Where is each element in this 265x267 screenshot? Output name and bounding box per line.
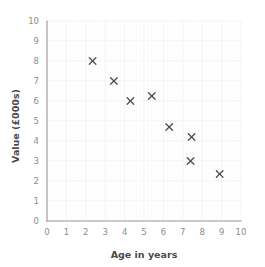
x-tick-label: 2	[83, 227, 88, 237]
y-tick-label: 7	[34, 76, 39, 86]
x-tick-label: 10	[236, 227, 247, 237]
x-tick-label: 3	[102, 227, 107, 237]
x-tick-label: 7	[180, 227, 185, 237]
x-tick-label: 1	[64, 227, 69, 237]
x-tick-label: 8	[199, 227, 204, 237]
y-tick-label: 3	[34, 156, 39, 166]
chart-canvas: 012345678910 012345678910 Age in years V…	[0, 0, 265, 267]
y-tick-label: 4	[34, 136, 39, 146]
x-tick-label: 0	[44, 227, 49, 237]
y-tick-label: 0	[34, 216, 39, 226]
x-axis-title: Age in years	[111, 249, 178, 260]
x-tick-label: 4	[122, 227, 127, 237]
y-tick-label: 2	[34, 176, 39, 186]
y-tick-label: 10	[28, 16, 39, 26]
y-tick-label: 1	[34, 196, 39, 206]
x-tick-label: 9	[219, 227, 224, 237]
scatter-chart: 012345678910 012345678910 Age in years V…	[0, 0, 265, 267]
y-tick-label: 8	[34, 56, 39, 66]
y-tick-label: 6	[34, 96, 39, 106]
x-tick-label: 5	[141, 227, 146, 237]
x-tick-label: 6	[161, 227, 166, 237]
y-tick-label: 5	[34, 116, 39, 126]
y-axis-title: Value (£000s)	[10, 89, 21, 163]
y-tick-label: 9	[34, 36, 39, 46]
